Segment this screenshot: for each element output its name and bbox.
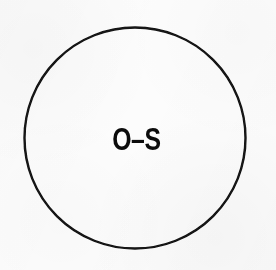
circle-label-text: O–S — [28, 125, 249, 155]
diagram-canvas: O–S — [0, 0, 276, 270]
